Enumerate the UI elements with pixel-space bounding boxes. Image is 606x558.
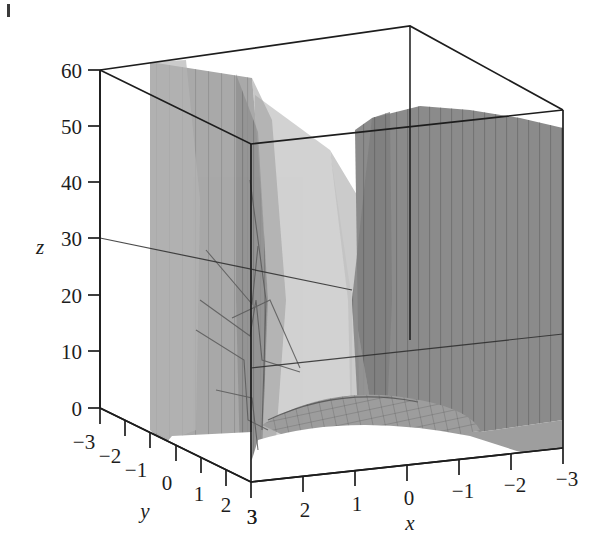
- y-tick-neg3: −3: [73, 430, 95, 454]
- z-tick-40: 40: [61, 171, 82, 195]
- z-tick-20: 20: [61, 284, 82, 308]
- x-tick-neg2: −2: [504, 473, 526, 497]
- z-tick-60: 60: [61, 59, 82, 83]
- y-tick-2: 2: [221, 493, 232, 517]
- x-tick-3: 3: [247, 505, 258, 529]
- axis-label-z: z: [35, 235, 44, 259]
- y-tick-neg2: −2: [99, 444, 121, 468]
- axis-z: 60 50 40 30 20 10 0 z: [35, 59, 100, 421]
- y-tick-0: 0: [162, 471, 173, 495]
- z-tick-0: 0: [72, 397, 83, 421]
- x-tick-2: 2: [300, 498, 311, 522]
- y-tick-neg1: −1: [125, 458, 147, 482]
- z-tick-30: 30: [61, 227, 82, 251]
- x-tick-neg1: −1: [452, 479, 474, 503]
- x-tick-1: 1: [352, 492, 363, 516]
- axis-label-x: x: [404, 511, 415, 535]
- y-tick-1: 1: [194, 482, 205, 506]
- z-tick-10: 10: [61, 340, 82, 364]
- surface-plot-figure: 60 50 40 30 20 10 0 z −3 −2 −1 0 1 2 3 y: [0, 0, 606, 558]
- z-tick-50: 50: [61, 115, 82, 139]
- x-tick-0: 0: [404, 486, 415, 510]
- axis-label-y: y: [138, 499, 150, 523]
- page-corner-mark: [7, 4, 10, 17]
- x-tick-neg3: −3: [556, 467, 578, 491]
